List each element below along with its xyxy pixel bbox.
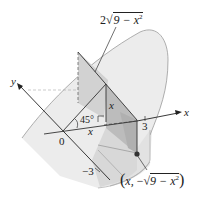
origin-label: 0 bbox=[59, 136, 65, 147]
solid-wedge-diagram: 2√9 − x2 y x 0 45° x x 3 −3 (x, −√9 − x2… bbox=[0, 0, 206, 197]
point-radicand: 9 − x2 bbox=[150, 173, 179, 188]
point-marker bbox=[134, 151, 139, 156]
y-axis-label: y bbox=[11, 76, 16, 87]
x-axis-label: x bbox=[184, 107, 189, 118]
angle-label: 45° bbox=[80, 115, 94, 125]
top-dimension-label: 2√9 − x2 bbox=[100, 14, 143, 26]
x-axis-arrowhead bbox=[175, 110, 182, 115]
y-axis-arrowhead bbox=[17, 83, 23, 90]
diagram-canvas bbox=[0, 0, 206, 197]
point-label: (x, −√9 − x2) bbox=[120, 172, 184, 188]
tick-3-label: 3 bbox=[142, 121, 148, 132]
base-x-label: x bbox=[88, 126, 93, 137]
tick-neg3-label: −3 bbox=[82, 166, 94, 177]
sqrt-symbol: √ bbox=[106, 13, 113, 27]
height-x-label: x bbox=[109, 100, 114, 111]
top-dimension-radicand: 9 − x2 bbox=[113, 12, 143, 27]
